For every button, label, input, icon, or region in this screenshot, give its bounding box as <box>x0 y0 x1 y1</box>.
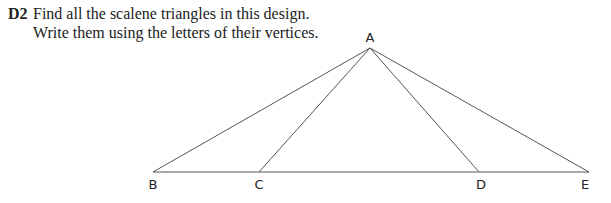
segment-AE <box>370 48 589 172</box>
vertex-label-c: C <box>254 177 263 192</box>
segment-AD <box>370 48 479 172</box>
vertex-label-a: A <box>366 30 375 45</box>
segment-AC <box>259 48 370 172</box>
triangle-design-diagram: A B C D E <box>0 0 611 203</box>
vertex-label-e: E <box>581 177 589 192</box>
segment-AB <box>153 48 370 172</box>
vertex-label-d: D <box>476 177 486 192</box>
vertex-label-b: B <box>149 177 158 192</box>
